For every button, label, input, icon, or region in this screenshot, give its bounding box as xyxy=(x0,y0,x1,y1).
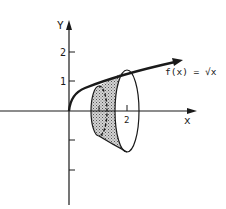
y-axis-arrow-icon xyxy=(66,20,72,30)
function-curve xyxy=(69,62,175,111)
curve-arrow-icon xyxy=(172,58,183,66)
y-tick-label-1: 1 xyxy=(60,76,66,87)
y-axis-label: Y xyxy=(57,19,64,32)
x-tick-label-2: 2 xyxy=(124,115,129,125)
function-label: f(x) = √x xyxy=(165,66,217,77)
y-tick-label-2: 2 xyxy=(60,47,66,58)
solid-of-revolution-diagram: Y 2 1 x 2 f(x) = √x xyxy=(0,0,226,209)
x-axis-label: x xyxy=(184,114,191,127)
